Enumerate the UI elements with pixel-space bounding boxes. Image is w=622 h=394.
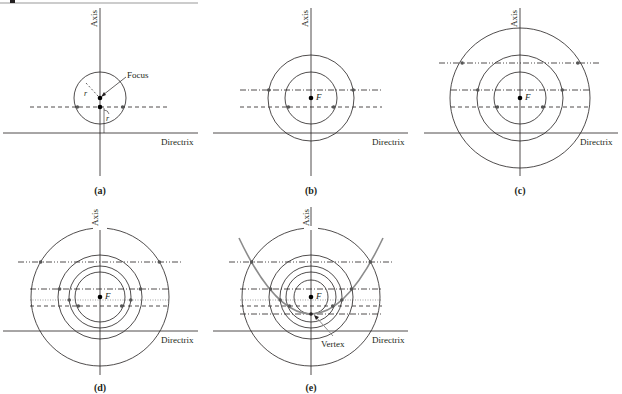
intersection-point <box>129 298 133 302</box>
intersection-point <box>476 88 480 92</box>
focus-point <box>98 295 103 300</box>
caption-c: (c) <box>514 185 525 197</box>
intersection-point <box>331 304 335 308</box>
intersection-point <box>287 105 291 109</box>
intersection-point <box>158 260 162 264</box>
directrix-label: Directrix <box>580 137 613 147</box>
vertex-point <box>309 312 313 316</box>
circle-gap <box>304 226 318 230</box>
intersection-point <box>58 287 62 291</box>
intersection-point <box>250 260 254 264</box>
intersection-point <box>76 105 80 109</box>
directrix-label: Directrix <box>372 137 405 147</box>
circle-gap <box>93 226 107 230</box>
radius-dashed-segment <box>86 83 98 96</box>
caption-d: (d) <box>94 382 106 394</box>
focus-label: F <box>524 92 531 102</box>
radius-label-lower: r <box>106 114 110 123</box>
radius-label-upper: r <box>84 89 88 98</box>
intersection-point <box>576 61 580 65</box>
intersection-point <box>369 260 373 264</box>
focus-point <box>518 96 523 101</box>
caption-b: (b) <box>305 185 317 197</box>
focus-point <box>309 295 314 300</box>
panel-d: Axis Directrix F (d) <box>3 204 198 394</box>
intersection-point <box>278 298 282 302</box>
intersection-point <box>67 298 71 302</box>
intersection-point <box>460 61 464 65</box>
intersection-point <box>39 260 43 264</box>
focus-point <box>309 96 314 101</box>
focus-label: F <box>104 291 111 301</box>
axis-label: Axis <box>90 209 100 227</box>
axis-label: Axis <box>301 209 311 227</box>
intersection-point <box>267 88 271 92</box>
focus-arrow-head <box>101 92 106 97</box>
intersection-point <box>350 287 354 291</box>
parabola-construction-figure: Axis Directrix r r Focus (a) Axis Direct… <box>0 0 622 394</box>
panel-e: Axis Directrix F Vertex (e) <box>213 207 408 394</box>
caption-a: (a) <box>94 185 106 197</box>
vertex-label: Vertex <box>321 339 345 349</box>
intersection-point <box>288 304 292 308</box>
intersection-point <box>121 105 125 109</box>
intersection-point <box>120 304 124 308</box>
panel-a: Axis Directrix r r Focus (a) <box>3 8 198 197</box>
intersection-point <box>332 105 336 109</box>
intersection-point <box>77 304 81 308</box>
intersection-point <box>340 298 344 302</box>
axis-label: Axis <box>89 10 99 28</box>
axis-label: Axis <box>300 10 310 28</box>
panel-c: Axis Directrix F (c) <box>424 8 618 197</box>
axis-label: Axis <box>509 10 519 28</box>
panel-b: Axis Directrix F (b) <box>213 8 408 197</box>
directrix-label: Directrix <box>372 335 405 345</box>
intersection-point <box>351 88 355 92</box>
focus-label: F <box>315 291 322 301</box>
focus-label: Focus <box>127 70 149 80</box>
intersection-point <box>541 105 545 109</box>
caption-e: (e) <box>305 382 316 394</box>
directrix-label: Directrix <box>161 335 194 345</box>
top-rule-mark <box>10 0 15 3</box>
intersection-point <box>560 88 564 92</box>
vertex-arrow <box>316 317 333 336</box>
directrix-label: Directrix <box>161 137 194 147</box>
intersection-point <box>269 287 273 291</box>
intersection-point <box>139 287 143 291</box>
intersection-point <box>496 105 500 109</box>
focus-label: F <box>315 92 322 102</box>
axis-point <box>98 105 103 110</box>
focus-arrow <box>103 77 126 95</box>
